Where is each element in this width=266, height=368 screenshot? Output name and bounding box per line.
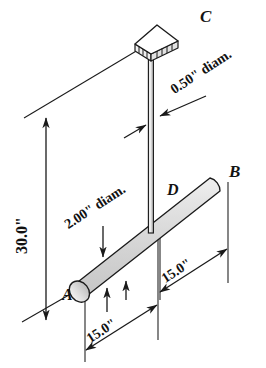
point-label-b: B <box>229 163 240 180</box>
leader-line-rod-upper <box>160 96 206 116</box>
extension-line-top <box>24 47 143 118</box>
leader-rod-diameter <box>124 96 206 138</box>
point-label-a: A <box>62 287 73 303</box>
point-label-c: C <box>200 8 211 25</box>
leader-line-rod-lower <box>124 125 146 138</box>
dimension-label-height-30: 30.0" <box>14 217 30 254</box>
support-plate-c <box>135 25 178 61</box>
point-label-d: D <box>167 182 179 198</box>
shaft-ab <box>65 178 220 306</box>
rod-body <box>148 48 153 233</box>
rod-cd <box>148 48 153 233</box>
